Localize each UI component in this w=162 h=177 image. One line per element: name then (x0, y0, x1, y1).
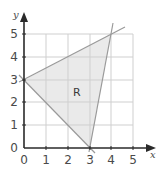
y-axis-arrow-icon (20, 12, 28, 22)
x-tick-5: 5 (129, 153, 137, 167)
y-axis-label: y (12, 9, 19, 20)
x-tick-3: 3 (86, 153, 94, 167)
y-tick-2: 2 (10, 95, 18, 109)
x-tick-2: 2 (64, 153, 72, 167)
region-label: R (73, 86, 81, 99)
y-tick-5: 5 (10, 27, 18, 41)
x-axis-label: x (150, 149, 156, 160)
y-tick-0: 0 (10, 141, 18, 155)
x-tick-0: 0 (20, 153, 28, 167)
y-tick-3: 3 (10, 73, 18, 87)
coordinate-plot: 0 1 2 3 4 5 0 1 2 3 4 5 x y R (0, 0, 162, 177)
x-tick-4: 4 (107, 153, 115, 167)
y-tick-1: 1 (10, 118, 18, 132)
x-tick-1: 1 (42, 153, 50, 167)
y-tick-4: 4 (10, 50, 18, 64)
